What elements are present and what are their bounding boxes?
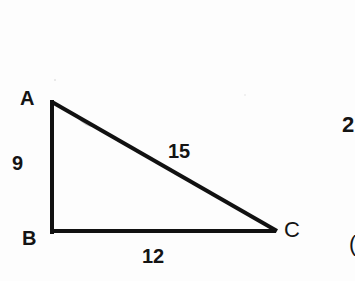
triangle-diagram: A B C 9 12 15 2 (	[0, 0, 355, 281]
vertex-label-c: C	[284, 219, 300, 241]
side-label-ac: 15	[168, 141, 190, 161]
adjacent-fragment-bottom: (	[349, 233, 355, 255]
vertex-label-a: A	[20, 88, 34, 108]
side-label-ab: 9	[12, 153, 23, 173]
side-label-bc: 12	[142, 246, 164, 266]
adjacent-fragment-top: 2	[342, 114, 354, 136]
scan-speck	[54, 79, 56, 81]
vertex-label-b: B	[22, 228, 36, 248]
scan-speck	[244, 94, 246, 96]
side-ac	[52, 102, 277, 231]
